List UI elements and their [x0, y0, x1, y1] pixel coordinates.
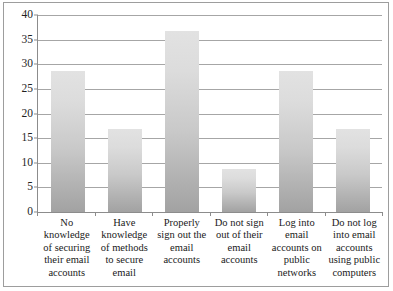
y-axis-tick-mark: [34, 88, 38, 89]
bar-slot: [211, 15, 268, 212]
bar-series: [39, 15, 382, 212]
x-axis-category-label: Properly sign out the email accounts: [153, 217, 211, 287]
y-axis-tick-label: 10: [22, 157, 34, 169]
y-axis-tick-label: 5: [27, 182, 33, 194]
bar-slot: [268, 15, 325, 212]
y-axis-tick-label: 40: [22, 9, 34, 21]
x-axis-category-label: Do not log into email accounts using pub…: [326, 217, 384, 287]
y-axis-tick-mark: [34, 39, 38, 40]
bar[interactable]: [108, 129, 142, 212]
bar[interactable]: [165, 31, 199, 212]
bar[interactable]: [51, 71, 85, 212]
y-axis-tick-label: 35: [22, 34, 34, 46]
x-axis-labels: No knowledge of securing their email acc…: [38, 217, 383, 287]
plot-wrapper: 0510152025303540 No knowledge of securin…: [4, 3, 388, 286]
y-axis-tick-label: 0: [27, 206, 33, 218]
x-axis-category-label: No knowledge of securing their email acc…: [38, 217, 96, 287]
x-axis-category-label: Have knowledge of methods to secure emai…: [96, 217, 154, 287]
bar-chart: 0510152025303540 No knowledge of securin…: [3, 2, 389, 287]
y-axis-tick-mark: [34, 162, 38, 163]
y-axis-tick-label: 30: [22, 59, 34, 71]
bar-slot: [96, 15, 153, 212]
bar-slot: [153, 15, 210, 212]
y-axis-tick-label: 20: [22, 108, 34, 120]
x-axis-tick-mark: [267, 212, 268, 216]
x-axis-tick-mark: [210, 212, 211, 216]
bar[interactable]: [279, 71, 313, 212]
y-axis-tick-mark: [34, 15, 38, 16]
x-axis-tick-mark: [152, 212, 153, 216]
bar-slot: [39, 15, 96, 212]
bar[interactable]: [336, 129, 370, 212]
plot-area: 0510152025303540: [37, 15, 382, 212]
y-axis-tick-mark: [34, 64, 38, 65]
x-axis-category-label: Do not sign out of their email accounts: [211, 217, 269, 287]
x-axis-category-label: Log into email accounts on public networ…: [268, 217, 326, 287]
x-axis-tick-mark: [382, 212, 383, 216]
y-axis-tick-label: 25: [22, 83, 34, 95]
y-axis-tick-mark: [34, 138, 38, 139]
y-axis-tick-label: 15: [22, 132, 34, 144]
bar-slot: [325, 15, 382, 212]
y-axis-tick-mark: [34, 113, 38, 114]
y-axis-tick-mark: [34, 187, 38, 188]
x-axis-tick-mark: [95, 212, 96, 216]
bar[interactable]: [222, 169, 256, 212]
x-axis-tick-mark: [325, 212, 326, 216]
x-axis-tick-mark: [37, 212, 38, 216]
x-axis-ticks: [37, 212, 382, 216]
